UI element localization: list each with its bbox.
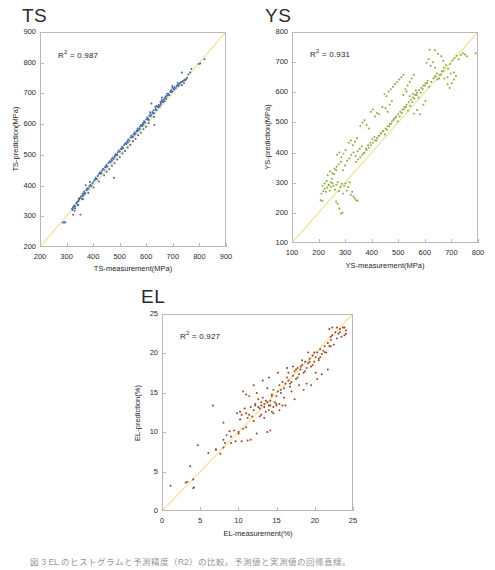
y-tick-label-el: 20 (132, 350, 158, 358)
y-tick-ys (292, 32, 296, 33)
x-axis-title-ts: TS-measurement(MPa) (94, 265, 172, 273)
x-tick-ys (478, 239, 479, 243)
x-tick-el (353, 507, 354, 511)
x-tick-label-ys: 800 (472, 249, 485, 257)
x-tick-el (315, 507, 316, 511)
identity-line-ys (293, 33, 477, 242)
x-tick-label-ys: 500 (392, 249, 405, 257)
y-tick-label-el: 10 (132, 428, 158, 436)
scatter-points-ys (293, 33, 477, 242)
plot-area-ts (40, 32, 226, 247)
x-tick-label-el: 10 (234, 517, 242, 525)
y-tick-el (162, 472, 166, 473)
y-tick-label-ys: 500 (262, 119, 288, 127)
scatter-points-ts (41, 33, 225, 246)
y-tick-ts (40, 124, 44, 125)
y-tick-ts (40, 186, 44, 187)
x-tick-label-ys: 200 (312, 249, 325, 257)
x-tick-label-ts: 500 (113, 253, 126, 261)
y-tick-ys (292, 62, 296, 63)
x-tick-ys (425, 239, 426, 243)
x-tick-ys (451, 239, 452, 243)
panel-ts: TS R2 = 0.987 TS-measurement(MPa) TS-pre… (0, 0, 250, 285)
y-tick-label-ts: 600 (10, 120, 36, 128)
plot-area-ys (292, 32, 478, 243)
y-tick-label-ys: 200 (262, 209, 288, 217)
y-tick-label-ts: 200 (10, 243, 36, 251)
y-tick-label-ys: 100 (262, 239, 288, 247)
y-tick-label-ys: 300 (262, 179, 288, 187)
y-tick-label-ys: 700 (262, 58, 288, 66)
r2-value: = 0.987 (68, 51, 99, 60)
y-tick-el (162, 393, 166, 394)
x-axis-title-el: EL-measurement(%) (223, 530, 292, 538)
y-tick-el (162, 314, 166, 315)
x-tick-ys (372, 239, 373, 243)
panel-title-ys: YS (265, 6, 291, 25)
x-tick-ts (173, 243, 174, 247)
y-tick-label-ys: 800 (262, 28, 288, 36)
panel-el: EL R2 = 0.927 EL-measurement(%) EL-predi… (110, 285, 400, 555)
x-tick-label-ys: 400 (365, 249, 378, 257)
y-tick-ts (40, 63, 44, 64)
x-tick-ys (319, 239, 320, 243)
y-tick-label-el: 25 (132, 310, 158, 318)
y-tick-ts (40, 93, 44, 94)
x-tick-label-ys: 600 (419, 249, 432, 257)
x-tick-label-el: 20 (311, 517, 319, 525)
plot-area-el (162, 314, 353, 511)
y-tick-ts (40, 32, 44, 33)
r2-annotation-ys: R2 = 0.931 (310, 48, 350, 59)
y-tick-ys (292, 213, 296, 214)
r2-value: = 0.931 (320, 50, 351, 59)
y-axis-title-ys: YS-prediction(MPa) (264, 104, 272, 169)
x-tick-label-ts: 600 (140, 253, 153, 261)
panel-title-ts: TS (22, 6, 47, 25)
x-tick-label-ts: 400 (87, 253, 100, 261)
y-tick-ts (40, 155, 44, 156)
x-tick-el (277, 507, 278, 511)
y-axis-title-ts: TS-prediction(MPa) (12, 106, 20, 171)
x-tick-label-ts: 900 (220, 253, 233, 261)
y-tick-label-ts: 300 (10, 213, 36, 221)
y-tick-label-ys: 400 (262, 149, 288, 157)
x-tick-label-ys: 700 (445, 249, 458, 257)
y-tick-ys (292, 122, 296, 123)
x-tick-label-ys: 100 (286, 249, 299, 257)
x-tick-ys (398, 239, 399, 243)
x-tick-ts (199, 243, 200, 247)
panel-ys: YS R2 = 0.931 YS-measurement(MPa) YS-pre… (250, 0, 495, 285)
identity-line-el (163, 315, 352, 510)
x-tick-label-ys: 300 (339, 249, 352, 257)
y-tick-ys (292, 153, 296, 154)
x-tick-label-el: 15 (272, 517, 280, 525)
identity-line-ts (41, 33, 225, 246)
y-tick-label-el: 5 (132, 468, 158, 476)
y-tick-label-el: 15 (132, 389, 158, 397)
y-tick-ts (40, 216, 44, 217)
x-tick-ts (226, 243, 227, 247)
y-tick-el (162, 432, 166, 433)
x-tick-label-ts: 700 (167, 253, 180, 261)
x-tick-label-el: 5 (198, 517, 202, 525)
figure-root: TS R2 = 0.987 TS-measurement(MPa) TS-pre… (0, 0, 495, 570)
y-tick-el (162, 353, 166, 354)
x-tick-label-el: 0 (160, 517, 164, 525)
x-tick-ts (93, 243, 94, 247)
y-tick-label-ts: 400 (10, 182, 36, 190)
panel-title-el: EL (141, 287, 165, 306)
x-axis-title-ys: YS-measurement(MPa) (346, 262, 425, 270)
x-tick-ys (345, 239, 346, 243)
x-tick-ts (146, 243, 147, 247)
x-tick-el (238, 507, 239, 511)
r2-annotation-el: R2 = 0.927 (180, 330, 220, 341)
y-tick-label-ts: 700 (10, 90, 36, 98)
r2-value: = 0.927 (190, 332, 221, 341)
y-tick-label-ts: 800 (10, 59, 36, 67)
y-tick-label-ts: 500 (10, 151, 36, 159)
y-tick-label-el: 0 (132, 507, 158, 515)
scatter-points-el (163, 315, 352, 510)
r2-annotation-ts: R2 = 0.987 (58, 49, 98, 60)
y-tick-ys (292, 183, 296, 184)
x-tick-label-ts: 800 (193, 253, 206, 261)
